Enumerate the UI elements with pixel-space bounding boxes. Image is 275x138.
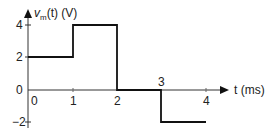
y-tick-label: 2 [16,50,23,64]
y-axis-arrow-icon [24,9,32,18]
y-tick-label: 0 [16,83,23,97]
x-axis-label: t (ms) [234,83,265,97]
step-chart: 4 2 0 −2 0 1 2 3 4 vm(t) (V) t (ms) [0,0,275,138]
y-tick-label: 4 [16,18,23,32]
y-tick-label: −2 [12,115,26,129]
x-tick-label: 3 [158,75,165,89]
x-tick-label: 0 [31,94,38,108]
x-tick-label: 4 [203,94,210,108]
x-axis-arrow-icon [220,86,229,94]
x-tick-label: 1 [70,94,77,108]
x-tick-label: 2 [114,94,121,108]
y-axis-label: vm(t) (V) [34,6,77,22]
